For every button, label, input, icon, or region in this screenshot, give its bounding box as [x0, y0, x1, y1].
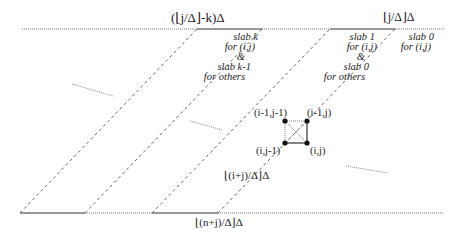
faint-segment-1 [72, 84, 113, 96]
slab-0-label: slab 0 for (i,j) [380, 32, 434, 52]
node-i-1-j [304, 118, 309, 123]
top-right-formula: ⌊j/Δ⌋Δ [383, 12, 414, 23]
slab-k-label: slab k for (i,j) & slab k-1 for others [168, 32, 258, 82]
faint-segment-2 [190, 121, 222, 130]
node-label-i-1-j-1: (i-1,j-1) [254, 107, 287, 118]
node-i-j-1 [282, 140, 287, 145]
node-label-i-j-1: (i,j-1) [256, 145, 280, 156]
slab-1-line-5: for others [300, 72, 365, 82]
mid-formula: ⌊(i+j)/Δ⌋Δ [224, 170, 269, 181]
slab-1-line-2: for (i,j) [300, 42, 377, 52]
bottom-formula: ⌊(n+j)/Δ⌋Δ [195, 217, 243, 228]
node-label-i-1-j: (i-1,j) [307, 107, 331, 118]
node-label-i-j: (i,j) [310, 145, 325, 156]
node-i-j [304, 140, 309, 145]
slab-1-label: slab 1 for (i,j) & slab 0 for others [300, 32, 390, 82]
slab-0-line-2: for (i,j) [380, 42, 431, 52]
faint-segment-3 [346, 166, 388, 173]
node-i-1-j-1 [282, 118, 287, 123]
top-left-formula-text: (⌊j/Δ⌋-k)Δ [171, 9, 225, 27]
slab-k-line-5: for others [168, 72, 245, 82]
